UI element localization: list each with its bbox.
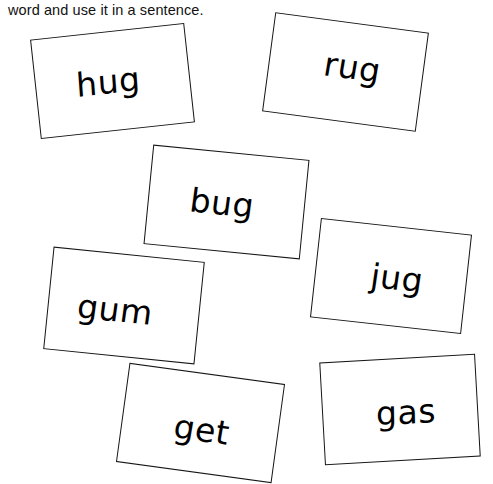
word-card-label: bug xyxy=(188,183,256,222)
word-card-gum[interactable]: gum xyxy=(43,247,205,365)
word-card-label: gas xyxy=(376,394,436,430)
word-card-rug[interactable]: rug xyxy=(262,12,429,132)
word-card-gas[interactable]: gas xyxy=(319,354,481,466)
word-card-label: get xyxy=(171,409,232,449)
word-card-label: hug xyxy=(75,61,141,101)
instruction-text: word and use it in a sentence. xyxy=(8,2,204,18)
word-card-bug[interactable]: bug xyxy=(143,145,309,260)
word-card-label: rug xyxy=(321,47,383,87)
word-card-hug[interactable]: hug xyxy=(30,23,195,139)
word-card-jug[interactable]: jug xyxy=(310,218,472,334)
worksheet-canvas: word and use it in a sentence. hug rug b… xyxy=(0,0,493,484)
word-card-label: jug xyxy=(368,258,425,296)
word-card-get[interactable]: get xyxy=(116,363,285,483)
word-card-label: gum xyxy=(76,289,156,329)
